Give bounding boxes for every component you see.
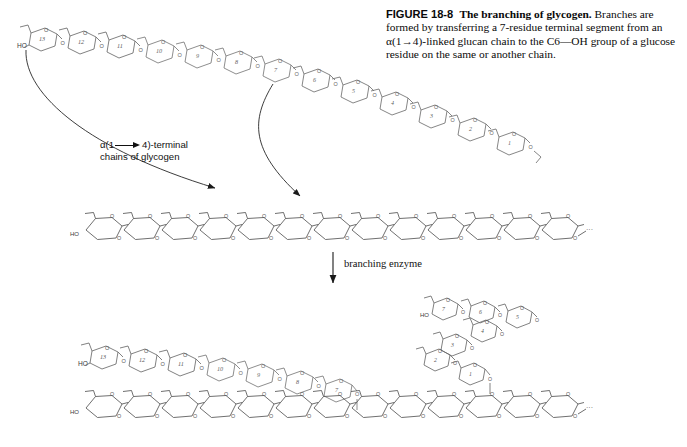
svg-text:O: O: [500, 331, 504, 337]
bottom-diagonal-chain: HO 13 O O 12 O O: [78, 343, 360, 402]
svg-text:7: 7: [442, 306, 446, 312]
svg-text:O: O: [529, 144, 533, 150]
svg-text:O: O: [110, 391, 114, 397]
sugar-ring-9: 9 O: [176, 42, 218, 68]
branch-ring-4: 4 O: [463, 318, 502, 342]
branch-ring-7: 7 O: [424, 296, 463, 320]
svg-text:O: O: [528, 213, 532, 219]
svg-text:O: O: [239, 370, 244, 376]
svg-text:O: O: [117, 235, 121, 241]
svg-text:7: 7: [274, 66, 278, 73]
svg-text:6: 6: [479, 309, 482, 315]
sugar-ring-2: 2 O: [449, 115, 491, 141]
ho-label-bottom-backbone: HO: [70, 409, 79, 415]
svg-text:O: O: [490, 213, 494, 219]
svg-text:O: O: [535, 317, 539, 323]
svg-text:O: O: [122, 34, 127, 40]
svg-text:O: O: [434, 104, 438, 110]
svg-text:O: O: [269, 413, 273, 419]
svg-text:12: 12: [139, 356, 145, 363]
svg-text:8: 8: [296, 378, 300, 385]
svg-text:O: O: [528, 391, 532, 397]
svg-text:O: O: [566, 213, 570, 219]
figure-caption: FIGURE 18-8 The branching of glycogen. B…: [386, 8, 682, 62]
svg-text:O: O: [262, 213, 266, 219]
ho-label-branch: HO: [420, 312, 429, 318]
svg-text:O: O: [231, 235, 235, 241]
sugar-ring-b7: 7 O: [315, 376, 357, 402]
svg-text:5: 5: [516, 314, 519, 320]
sugar-ring-11: 11 O: [98, 32, 140, 58]
svg-text:9: 9: [196, 52, 199, 59]
svg-text:O: O: [490, 391, 494, 397]
svg-text:O: O: [470, 345, 474, 351]
sugar-ring-b11: 11 O: [159, 350, 201, 376]
svg-text:O: O: [224, 391, 228, 397]
svg-text:O: O: [178, 52, 183, 58]
svg-text:O: O: [105, 345, 110, 351]
ho-label-bottom-chain: HO: [78, 360, 88, 367]
svg-text:O: O: [345, 235, 349, 241]
alpha-label-line2: chains of glycogen: [100, 151, 179, 162]
svg-text:13: 13: [100, 353, 106, 360]
chain-continuation-middle: ···: [586, 226, 593, 233]
ho-label-top-chain: HO: [17, 42, 27, 49]
alpha-label-pre: α(1: [100, 139, 114, 150]
branch-ring-2: 2 O: [416, 347, 455, 371]
pointer-arrow-alpha-chain: [26, 50, 215, 188]
svg-text:O: O: [395, 91, 399, 97]
svg-text:O: O: [414, 213, 418, 219]
svg-text:O: O: [183, 352, 188, 358]
svg-text:2: 2: [469, 126, 472, 132]
svg-text:O: O: [412, 104, 416, 110]
svg-text:O: O: [110, 213, 114, 219]
svg-text:O: O: [83, 30, 88, 36]
svg-text:13: 13: [39, 35, 45, 42]
svg-text:O: O: [452, 391, 456, 397]
svg-text:O: O: [269, 235, 273, 241]
sugar-ring-3: 3 O: [410, 102, 452, 128]
svg-text:8: 8: [235, 58, 239, 65]
svg-text:10: 10: [156, 47, 163, 54]
sugar-ring-7: 7 O: [254, 56, 296, 82]
svg-text:O: O: [334, 81, 338, 87]
svg-text:O: O: [161, 39, 166, 45]
svg-text:2: 2: [434, 357, 437, 363]
sugar-ring-10: 10 O: [137, 37, 179, 63]
svg-text:O: O: [488, 376, 492, 382]
alpha-1-4-chain-label: α(14)-terminal chains of glycogen: [100, 139, 188, 162]
bottom-horizontal-chain: HO OO OO: [70, 391, 593, 420]
svg-text:O: O: [438, 348, 442, 354]
svg-text:O: O: [512, 131, 516, 137]
svg-text:O: O: [383, 413, 387, 419]
svg-text:O: O: [186, 391, 190, 397]
glycogen-branching-diagram: HO 13 O O 12 O: [0, 0, 687, 447]
svg-text:10: 10: [217, 365, 224, 372]
svg-text:O: O: [535, 413, 539, 419]
svg-text:1: 1: [469, 371, 472, 377]
pointer-arrow-terminal-segment: [259, 84, 300, 196]
svg-text:O: O: [414, 391, 418, 397]
sugar-ring-b10: 10 O: [198, 355, 240, 381]
svg-text:O: O: [262, 391, 266, 397]
svg-text:O: O: [300, 213, 304, 219]
transferred-branch-chain: HO 7 O O 6 O O: [416, 296, 539, 394]
svg-text:O: O: [155, 413, 159, 419]
svg-text:O: O: [231, 413, 235, 419]
svg-text:12: 12: [78, 38, 84, 45]
middle-horizontal-chain: HO: [70, 213, 593, 242]
sugar-ring-4: 4 O: [371, 89, 413, 115]
svg-text:O: O: [453, 360, 457, 366]
branch-ring-6: 6 O: [461, 299, 500, 323]
svg-text:O: O: [376, 213, 380, 219]
svg-text:O: O: [497, 235, 501, 241]
svg-text:5: 5: [352, 88, 355, 94]
svg-text:O: O: [261, 363, 266, 369]
svg-text:O: O: [193, 413, 197, 419]
svg-text:O: O: [44, 27, 49, 33]
svg-text:O: O: [278, 376, 283, 382]
svg-text:3: 3: [429, 113, 433, 119]
branch-ring-5: 5 O: [498, 304, 537, 328]
svg-text:O: O: [421, 413, 425, 419]
svg-text:6: 6: [313, 77, 316, 83]
